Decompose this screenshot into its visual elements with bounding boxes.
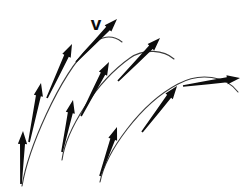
velocity-vector-arrow <box>141 86 177 133</box>
vector-arrow-layer <box>18 19 240 184</box>
velocity-vector-arrow <box>61 100 75 152</box>
label-layer: v <box>91 13 102 34</box>
velocity-vector-arrow <box>18 131 27 184</box>
velocity-vector-arrow <box>46 44 72 98</box>
trajectory-arc-trajectory-2 <box>62 51 174 160</box>
velocity-vector-arrow <box>28 83 43 142</box>
trajectory-layer <box>22 37 238 186</box>
velocity-vector-arrow <box>80 62 109 116</box>
projectile-vector-figure: v <box>0 0 252 191</box>
velocity-vector-arrow <box>99 127 117 176</box>
figure-canvas: v <box>0 0 252 191</box>
velocity-label: v <box>91 13 102 34</box>
velocity-vector-arrow <box>117 38 160 82</box>
